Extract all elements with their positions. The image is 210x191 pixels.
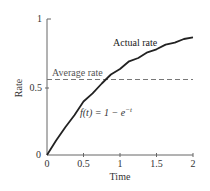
x-axis-title: Time xyxy=(110,171,131,182)
formula-label: f(t) = 1 − e−t xyxy=(80,106,133,119)
formula-superscript: −t xyxy=(125,106,133,114)
x-tick-label: 1.5 xyxy=(150,158,163,169)
y-tick-label: 1 xyxy=(37,13,42,24)
actual-rate-curve xyxy=(47,37,193,155)
y-ticks: 0 0.5 1 xyxy=(30,13,50,160)
average-rate-label: Average rate xyxy=(52,67,103,78)
x-tick-label: 1 xyxy=(118,158,123,169)
chart: 0 0.5 1 0 0.5 1 1.5 2 Time Rate Actual r… xyxy=(0,0,210,191)
x-tick-label: 0.5 xyxy=(77,158,90,169)
y-axis-title: Rate xyxy=(13,78,24,97)
y-tick-label: 0 xyxy=(36,149,41,160)
y-tick-label: 0.5 xyxy=(30,82,43,93)
x-tick-label: 2 xyxy=(191,158,196,169)
actual-rate-label: Actual rate xyxy=(113,37,158,48)
x-tick-label: 0 xyxy=(45,158,50,169)
formula-main: f(t) = 1 − e xyxy=(80,107,126,119)
